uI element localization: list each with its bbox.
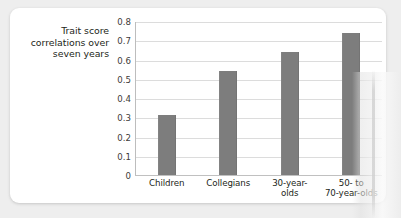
bars-group bbox=[136, 22, 382, 175]
y-axis-tick-label: 0.8 bbox=[111, 17, 131, 27]
y-axis-tick-label: 0.2 bbox=[111, 133, 131, 143]
y-axis-tick-label: 0.1 bbox=[111, 152, 131, 162]
plot-area bbox=[135, 22, 382, 176]
x-axis-category-label: 30-year-olds bbox=[259, 178, 321, 199]
bar-slot bbox=[321, 22, 383, 175]
y-axis-tick-label: 0.7 bbox=[111, 36, 131, 46]
x-axis-category-label: Collegians bbox=[198, 178, 260, 199]
bar-slot bbox=[136, 22, 198, 175]
x-axis-line bbox=[135, 175, 382, 176]
bar bbox=[281, 52, 299, 175]
bar bbox=[219, 71, 237, 175]
x-axis-category-label-line: Collegians bbox=[198, 178, 260, 188]
bar bbox=[158, 115, 176, 175]
y-axis-tick-label: 0.6 bbox=[111, 56, 131, 66]
x-axis-category-label-line: 50- to bbox=[321, 178, 383, 188]
bar-chart: Trait score correlations over seven year… bbox=[10, 8, 386, 203]
y-axis-caption-line-2: correlations over bbox=[16, 37, 109, 49]
y-axis-tick-label: 0 bbox=[111, 171, 131, 181]
x-axis-category-label-line: Children bbox=[136, 178, 198, 188]
x-axis-category-label-line: 30-year- bbox=[259, 178, 321, 188]
x-axis-category-label-line: olds bbox=[259, 188, 321, 198]
bar bbox=[342, 33, 360, 175]
x-axis-category-label: 50- to70-year-olds bbox=[321, 178, 383, 199]
y-axis-tick-label: 0.4 bbox=[111, 94, 131, 104]
y-axis-caption: Trait score correlations over seven year… bbox=[16, 25, 109, 60]
x-axis-category-label-line: 70-year-olds bbox=[321, 188, 383, 198]
bar-slot bbox=[259, 22, 321, 175]
x-axis-category-label: Children bbox=[136, 178, 198, 199]
y-axis-caption-line-1: Trait score bbox=[16, 25, 109, 37]
y-axis-tick-label: 0.3 bbox=[111, 113, 131, 123]
y-axis-caption-line-3: seven years bbox=[16, 48, 109, 60]
bar-slot bbox=[198, 22, 260, 175]
x-axis-category-labels: ChildrenCollegians30-year-olds50- to70-y… bbox=[136, 178, 382, 199]
figure-card: Trait score correlations over seven year… bbox=[10, 8, 386, 203]
y-axis-tick-labels: 0.80.70.60.50.40.30.20.10 bbox=[111, 22, 131, 176]
y-axis-tick-label: 0.5 bbox=[111, 75, 131, 85]
